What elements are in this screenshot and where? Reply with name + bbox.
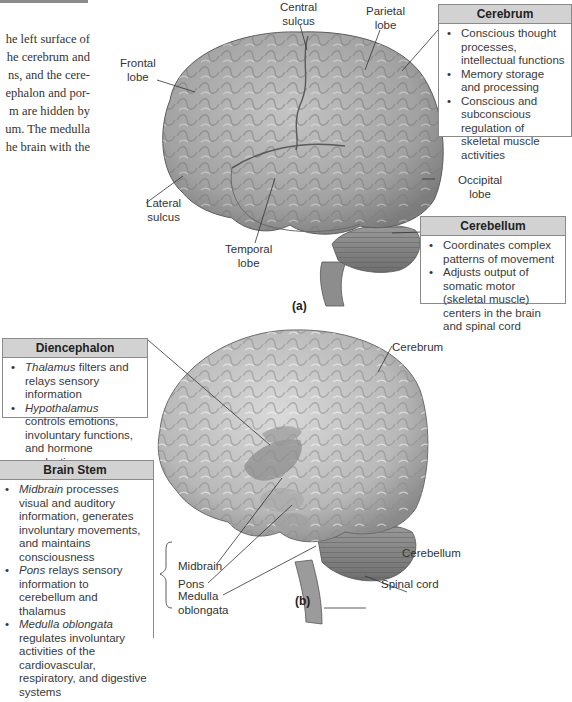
label-line: lobe: [225, 256, 272, 270]
term-medulla-oblongata: Medulla oblongata: [19, 618, 113, 630]
label-line: lobe: [458, 187, 502, 201]
diencephalon-function-list: Thalamus filters and relays sensory info…: [3, 358, 147, 474]
cerebrum-function-list: Conscious thought processes, intellectua…: [439, 24, 571, 167]
label-cerebellum: Cerebellum: [402, 546, 461, 560]
list-item: Conscious thought processes, intellectua…: [461, 27, 565, 68]
brain-lateral-view-a: [163, 32, 443, 306]
label-temporal-lobe: Temporal lobe: [225, 242, 272, 270]
panel-label-a: (a): [292, 299, 307, 313]
list-item: Midbrain processes visual and auditory i…: [19, 483, 147, 564]
brain-stem-function-list: Midbrain processes visual and auditory i…: [0, 480, 153, 702]
label-cerebrum: Cerebrum: [392, 340, 443, 354]
term-midbrain: Midbrain: [19, 483, 63, 495]
label-parietal-lobe: Parietal lobe: [366, 4, 405, 32]
label-line: oblongata: [178, 603, 229, 617]
cerebellum-box-title: Cerebellum: [421, 217, 565, 236]
brain-stem-box-title: Brain Stem: [0, 461, 153, 480]
label-spinal-cord: Spinal cord: [381, 577, 439, 591]
label-line: Central: [280, 0, 317, 14]
term-thalamus: Thalamus: [25, 361, 76, 373]
list-item: Pons relays sensory information to cereb…: [19, 564, 147, 618]
list-item: Memory storage and processing: [461, 68, 565, 95]
label-lateral-sulcus: Lateral sulcus: [146, 196, 181, 224]
list-item: Coordinates complex patterns of movement: [443, 239, 559, 266]
item-text: regulates involuntary activities of the …: [19, 632, 147, 698]
label-occipital-lobe: Occipital lobe: [458, 173, 502, 201]
cerebrum-info-box: Cerebrum Conscious thought processes, in…: [438, 4, 572, 137]
label-line: Frontal: [120, 56, 156, 70]
list-item: Conscious and subconscious regulation of…: [461, 95, 565, 163]
label-frontal-lobe: Frontal lobe: [120, 56, 156, 84]
label-central-sulcus: Central sulcus: [280, 0, 317, 28]
label-line: Temporal: [225, 242, 272, 256]
brain-stem-info-box: Brain Stem Midbrain processes visual and…: [0, 460, 154, 638]
diencephalon-info-box: Diencephalon Thalamus filters and relays…: [2, 338, 148, 418]
list-item: Thalamus filters and relays sensory info…: [25, 361, 141, 402]
cerebellum-info-box: Cerebellum Coordinates complex patterns …: [420, 216, 566, 304]
list-item: Hypothalamus controls emotions, involunt…: [25, 402, 141, 470]
panel-label-b: (b): [295, 594, 310, 608]
label-line: Lateral: [146, 196, 181, 210]
label-midbrain: Midbrain: [178, 559, 222, 573]
label-line: lobe: [366, 18, 405, 32]
cerebrum-box-title: Cerebrum: [439, 5, 571, 24]
label-line: Medulla: [178, 589, 229, 603]
label-medulla-oblongata: Medulla oblongata: [178, 589, 229, 617]
label-line: sulcus: [146, 210, 181, 224]
term-hypothalamus: Hypothalamus: [25, 402, 99, 414]
label-line: lobe: [120, 70, 156, 84]
diencephalon-box-title: Diencephalon: [3, 339, 147, 358]
label-line: Parietal: [366, 4, 405, 18]
brain-stem-bracket: [160, 542, 172, 608]
list-item: Medulla oblongata regulates involuntary …: [19, 618, 147, 699]
label-line: Occipital: [458, 173, 502, 187]
cerebellum-function-list: Coordinates complex patterns of movement…: [421, 236, 565, 339]
list-item: Adjusts output of somatic motor (skeleta…: [443, 266, 559, 334]
label-line: sulcus: [280, 14, 317, 28]
term-pons: Pons: [19, 564, 45, 576]
